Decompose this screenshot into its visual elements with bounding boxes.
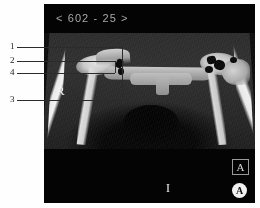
ct-slice-image[interactable]: [44, 33, 255, 149]
orientation-marker-anterior-box: A: [232, 159, 249, 175]
orientation-marker-inferior: I: [166, 182, 170, 194]
air-cell-left-3: [205, 66, 213, 73]
series-navigation-label[interactable]: < 602 - 25 >: [56, 12, 129, 24]
orientation-marker-right: R: [56, 84, 65, 97]
air-cell-left-4: [230, 57, 237, 63]
vomer-bone: [156, 77, 169, 95]
callout-number-2: 2: [10, 56, 15, 65]
callout-number-3: 3: [10, 95, 15, 104]
callout-number-4: 4: [10, 68, 15, 77]
screenshot-root: < 602 - 25 > R I A A: [0, 0, 260, 208]
orientation-marker-anterior-circle[interactable]: A: [232, 183, 247, 198]
air-cell-right-2: [118, 68, 124, 75]
callout-number-1: 1: [10, 42, 15, 51]
oropharyngeal-airway: [123, 105, 179, 143]
glenoid-fossa-right: [95, 48, 130, 66]
dicom-viewport[interactable]: < 602 - 25 > R I A A: [44, 4, 255, 203]
petrous-temporal-left: [222, 59, 250, 85]
